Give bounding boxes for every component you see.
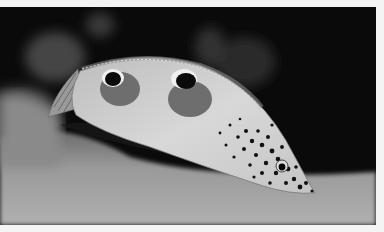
eyespot-left xyxy=(105,72,121,86)
fish-eye xyxy=(279,164,286,171)
eyespot-right xyxy=(176,73,196,89)
fish-illustration xyxy=(0,7,376,225)
fish-photo xyxy=(0,7,376,225)
